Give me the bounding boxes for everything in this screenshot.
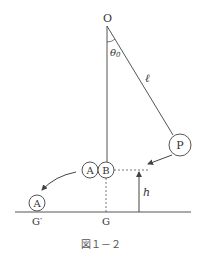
ball-b-label: B — [102, 165, 109, 176]
length-label: ℓ — [145, 72, 150, 85]
angle-arc — [107, 39, 115, 42]
height-label: h — [143, 186, 150, 199]
ball-b: B — [98, 162, 114, 178]
figure-caption: 図１－２ — [81, 239, 121, 250]
ball-p-label: P — [176, 139, 184, 152]
projectile-arrow — [42, 172, 76, 190]
ball-a: A — [82, 162, 98, 178]
ball-a-label: A — [85, 165, 94, 176]
swing-arrow — [148, 155, 172, 164]
ball-a-landed-label: A — [32, 198, 41, 209]
ground-g-prime-label: G′ — [32, 216, 43, 227]
ground-g-label: G — [102, 216, 110, 227]
pivot-label: O — [103, 12, 112, 25]
angle-label: θ0 — [110, 47, 121, 59]
pendulum-collision-diagram: O θ0 ℓ P A B h A G′ G 図１－ — [0, 0, 202, 259]
angled-string — [107, 26, 173, 135]
ball-p: P — [169, 134, 191, 156]
ball-a-landed: A — [29, 195, 45, 211]
